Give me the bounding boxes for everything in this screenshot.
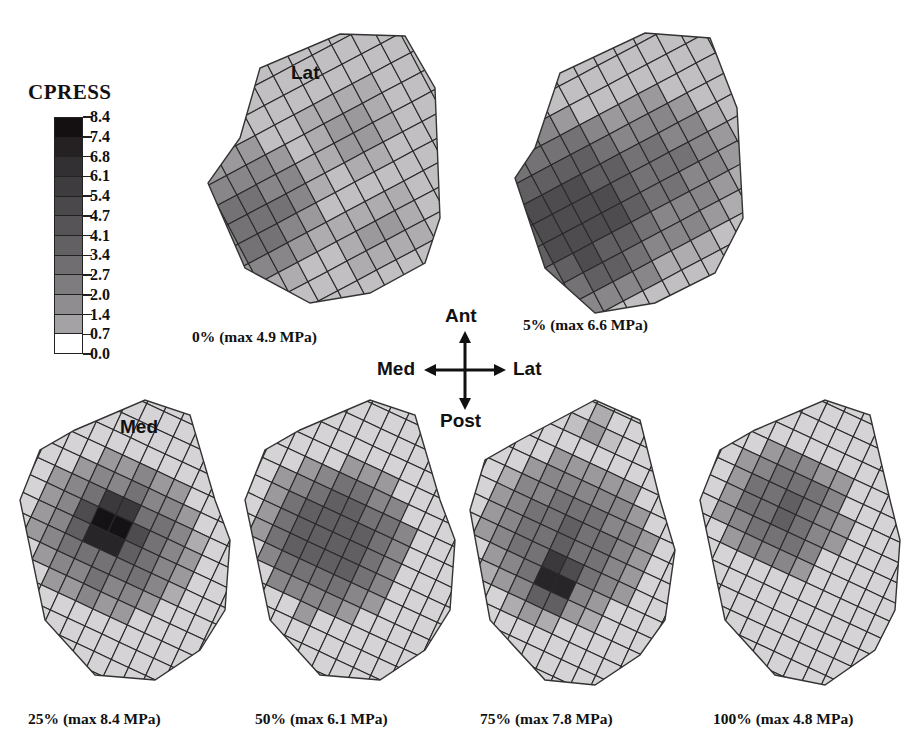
panel-0pct-caption: 0% (max 4.9 MPa) xyxy=(192,328,317,346)
panel-25pct-caption: 25% (max 8.4 MPa) xyxy=(28,710,161,728)
colorbar-band xyxy=(55,177,82,197)
colorbar-tick-label: 7.4 xyxy=(90,129,110,145)
orient-lat-label: Lat xyxy=(513,358,542,380)
colorbar-tick-label: 4.7 xyxy=(90,208,110,224)
colorbar-tick-label: 3.4 xyxy=(90,247,110,263)
colorbar xyxy=(54,117,83,354)
pressure-map-75pct xyxy=(465,390,685,690)
colorbar-tick-label: 8.4 xyxy=(90,109,110,125)
panel-5pct-caption: 5% (max 6.6 MPa) xyxy=(523,316,648,334)
colorbar-tick-label: 5.4 xyxy=(90,188,110,204)
panel-25pct-inner-label: Med xyxy=(120,416,158,438)
colorbar-band xyxy=(55,236,82,256)
colorbar-band xyxy=(55,216,82,236)
colorbar-tick-label: 1.4 xyxy=(90,307,110,323)
colorbar-band xyxy=(55,157,82,177)
colorbar-tick-label: 6.8 xyxy=(90,149,110,165)
orient-med-label: Med xyxy=(377,358,415,380)
colorbar-tick-label: 2.7 xyxy=(90,267,110,283)
colorbar-tick-label: 4.1 xyxy=(90,228,110,244)
pressure-map-100pct xyxy=(695,390,915,690)
pressure-map-5pct xyxy=(505,28,755,318)
panel-0pct-inner-label: Lat xyxy=(291,62,320,84)
colorbar-band xyxy=(55,256,82,276)
colorbar-band xyxy=(55,138,82,158)
colorbar-band xyxy=(55,315,82,335)
panel-100pct-caption: 100% (max 4.8 MPa) xyxy=(713,710,853,728)
colorbar-band xyxy=(55,275,82,295)
colorbar-band xyxy=(55,334,82,353)
colorbar-band xyxy=(55,295,82,315)
legend-title: CPRESS xyxy=(28,80,112,105)
colorbar-tick-label: 6.1 xyxy=(90,168,110,184)
colorbar-tick-label: 0.0 xyxy=(90,346,110,362)
pressure-map-50pct xyxy=(240,390,460,690)
panel-50pct-caption: 50% (max 6.1 MPa) xyxy=(255,710,388,728)
colorbar-tick-label: 0.7 xyxy=(90,326,110,342)
colorbar-band xyxy=(55,118,82,138)
colorbar-band xyxy=(55,197,82,217)
panel-75pct-caption: 75% (max 7.8 MPa) xyxy=(480,710,613,728)
pressure-map-0pct xyxy=(200,28,450,318)
colorbar-tick-label: 2.0 xyxy=(90,287,110,303)
